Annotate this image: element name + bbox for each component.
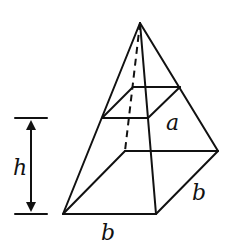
pyramid-diagram: h a b b bbox=[0, 0, 228, 251]
top-left-edge bbox=[102, 87, 133, 118]
base-front-label: b bbox=[101, 220, 115, 245]
base-right-edge bbox=[156, 151, 218, 214]
height-label: h bbox=[13, 155, 27, 180]
base-left-edge bbox=[63, 151, 125, 214]
top-side-label: a bbox=[166, 110, 179, 135]
base-side-label: b bbox=[192, 180, 206, 205]
